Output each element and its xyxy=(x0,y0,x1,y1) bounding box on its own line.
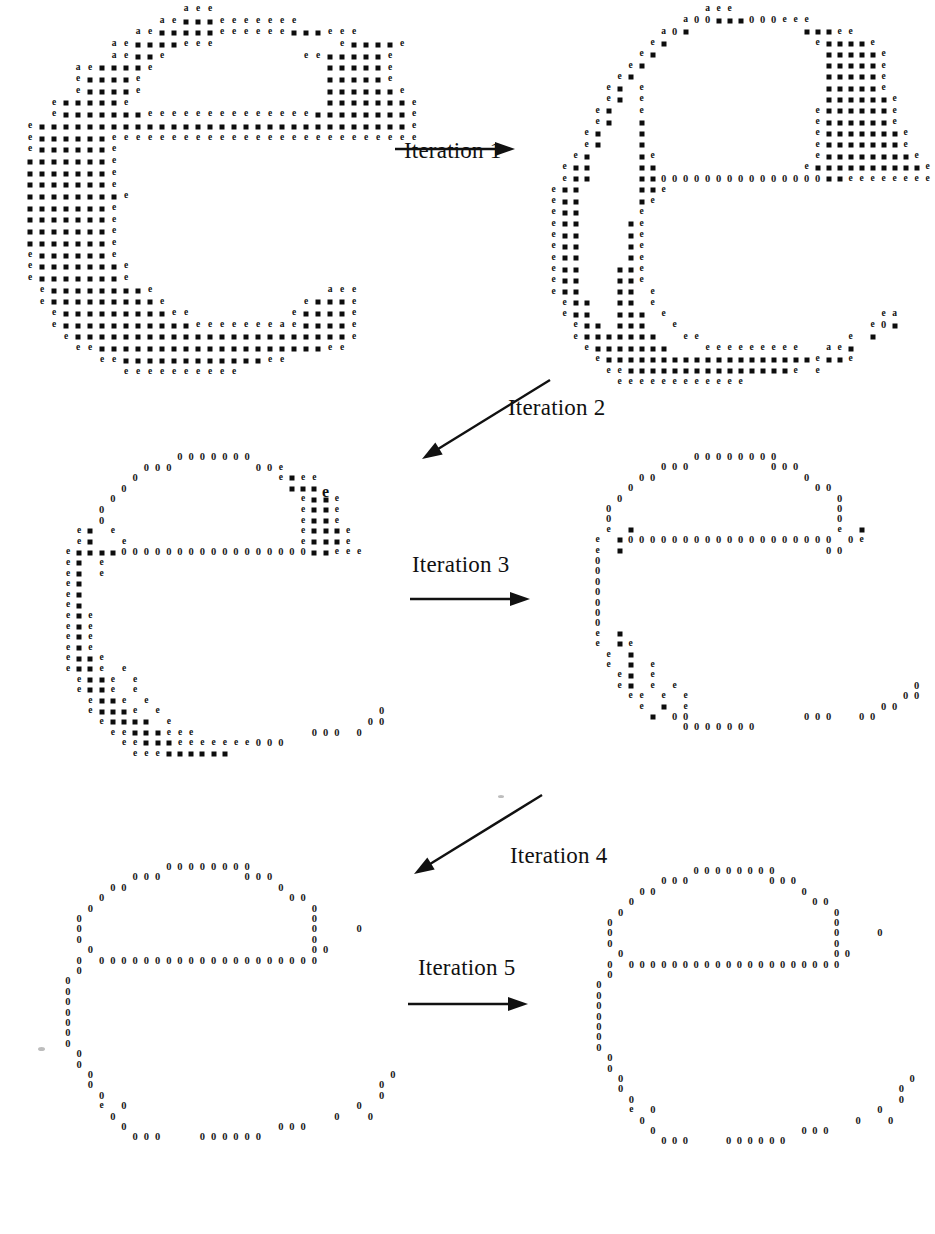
glyph-z: 0 xyxy=(118,484,129,495)
glyph-z: 0 xyxy=(614,494,625,504)
glyph-z: 0 xyxy=(734,1136,745,1146)
glyph-e: e xyxy=(312,51,324,63)
glyph-z: 0 xyxy=(354,1101,365,1111)
glyph-s xyxy=(636,332,647,343)
glyph-s xyxy=(348,63,360,75)
glyph-s xyxy=(48,226,60,238)
glyph-z: 0 xyxy=(801,473,812,483)
glyph-z: 0 xyxy=(702,866,713,876)
glyph-z: 0 xyxy=(275,738,286,749)
glyph-е: е xyxy=(320,484,331,495)
glyph-s xyxy=(163,738,174,749)
arrow-label-iteration-4: Iteration 4 xyxy=(510,843,607,869)
glyph-s xyxy=(120,297,132,309)
glyph-z: 0 xyxy=(788,876,799,886)
glyph-z: 0 xyxy=(823,483,834,493)
glyph-e: e xyxy=(812,128,823,139)
glyph-s xyxy=(570,241,581,252)
glyph-s xyxy=(36,191,48,203)
glyph-s xyxy=(823,72,834,83)
glyph-s xyxy=(801,354,812,365)
glyph-z: 0 xyxy=(735,174,746,185)
glyph-e: e xyxy=(118,696,129,707)
glyph-e: e xyxy=(96,664,107,675)
glyph-s xyxy=(625,660,636,670)
glyph-s xyxy=(276,332,288,344)
glyph-s xyxy=(658,702,669,712)
glyph-s xyxy=(300,27,312,39)
glyph-s xyxy=(36,168,48,180)
glyph-s xyxy=(396,109,408,121)
glyph-z: 0 xyxy=(647,473,658,483)
glyph-s xyxy=(559,275,570,286)
glyph-s xyxy=(900,151,911,162)
glyph-z: 0 xyxy=(219,956,230,966)
glyph-s xyxy=(625,241,636,252)
glyph-s xyxy=(96,98,108,110)
glyph-e: e xyxy=(144,27,156,39)
glyph-z: 0 xyxy=(85,904,96,914)
glyph-s xyxy=(108,63,120,75)
glyph-s xyxy=(669,354,680,365)
glyph-e: e xyxy=(120,51,132,63)
glyph-s xyxy=(84,121,96,133)
glyph-s xyxy=(559,264,570,275)
glyph-e: e xyxy=(614,377,625,388)
glyph-z: 0 xyxy=(219,862,230,872)
glyph-z: 0 xyxy=(723,1136,734,1146)
glyph-s xyxy=(74,643,85,654)
glyph-s xyxy=(336,86,348,98)
glyph-s xyxy=(625,650,636,660)
glyph-z: 0 xyxy=(253,547,264,558)
glyph-z: 0 xyxy=(691,452,702,462)
glyph-z: 0 xyxy=(74,1060,85,1070)
glyph-z: 0 xyxy=(702,535,713,545)
glyph-s xyxy=(72,238,84,250)
glyph-e: e xyxy=(240,27,252,39)
glyph-e: e xyxy=(348,133,360,145)
glyph-e: e xyxy=(252,27,264,39)
glyph-s xyxy=(625,264,636,275)
glyph-e: e xyxy=(647,298,658,309)
glyph-z: 0 xyxy=(779,535,790,545)
glyph-z: 0 xyxy=(186,956,197,966)
glyph-s xyxy=(636,162,647,173)
glyph-s xyxy=(336,74,348,86)
glyph-s xyxy=(252,121,264,133)
glyph-e: e xyxy=(746,343,757,354)
glyph-s xyxy=(856,140,867,151)
glyph-s xyxy=(72,180,84,192)
glyph-e: e xyxy=(878,83,889,94)
glyph-e: e xyxy=(779,15,790,26)
glyph-s xyxy=(647,354,658,365)
glyph-z: 0 xyxy=(756,960,767,970)
glyph-s xyxy=(856,117,867,128)
glyph-s xyxy=(74,664,85,675)
glyph-z: 0 xyxy=(208,1132,219,1142)
glyph-z: 0 xyxy=(365,1112,376,1122)
glyph-e: e xyxy=(636,49,647,60)
glyph-z: 0 xyxy=(96,893,107,903)
glyph-s xyxy=(636,320,647,331)
glyph-s xyxy=(324,51,336,63)
glyph-s xyxy=(74,653,85,664)
glyph-s xyxy=(834,94,845,105)
glyph-z: 0 xyxy=(680,462,691,472)
glyph-s xyxy=(636,151,647,162)
glyph-z: 0 xyxy=(779,462,790,472)
glyph-s xyxy=(570,174,581,185)
glyph-e: e xyxy=(108,168,120,180)
glyph-s xyxy=(348,51,360,63)
glyph-z: 0 xyxy=(376,1091,387,1101)
glyph-e: e xyxy=(144,367,156,379)
glyph-s xyxy=(823,61,834,72)
glyph-s xyxy=(240,343,252,355)
glyph-s xyxy=(219,749,230,760)
glyph-z: 0 xyxy=(174,956,185,966)
glyph-s xyxy=(144,343,156,355)
glyph-s xyxy=(132,51,144,63)
glyph-s xyxy=(120,308,132,320)
glyph-s xyxy=(856,94,867,105)
glyph-z: 0 xyxy=(867,712,878,722)
glyph-e: e xyxy=(275,473,286,484)
